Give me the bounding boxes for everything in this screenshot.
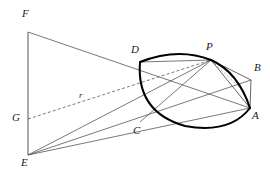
geometry-canvas [0, 0, 270, 179]
segment-P-interior-dashed [211, 60, 244, 92]
point-label-F: F [22, 8, 29, 19]
segment-PD [140, 60, 211, 62]
arc-lower [140, 62, 250, 128]
arc-upper [140, 54, 250, 108]
point-label-E: E [21, 157, 28, 168]
point-label-P: P [206, 41, 213, 52]
point-label-C: C [133, 125, 140, 136]
segment-EB [28, 80, 251, 155]
segment-EP [28, 60, 211, 155]
segment-label-r: r [79, 91, 83, 100]
segment-BA [250, 80, 251, 108]
segment-GP-dashed [28, 60, 211, 119]
segment-PA [211, 60, 250, 108]
point-label-A: A [252, 110, 259, 121]
point-label-G: G [12, 112, 20, 123]
point-label-B: B [254, 62, 261, 73]
geometry-figure: F D P B A C G E r [0, 0, 270, 179]
point-label-D: D [131, 44, 139, 55]
